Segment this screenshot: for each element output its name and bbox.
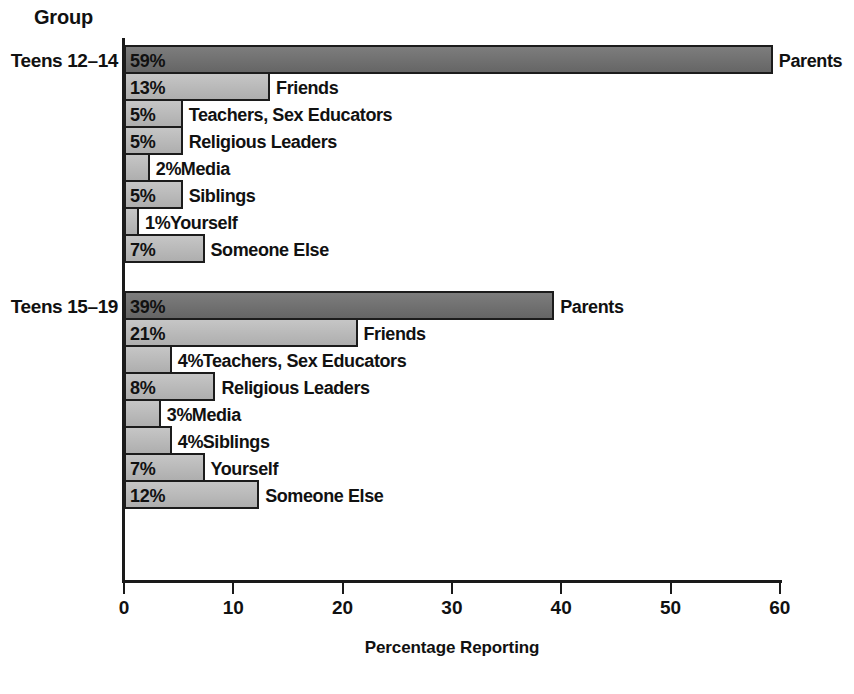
bar-category-label: Someone Else bbox=[211, 241, 329, 259]
bar-category-label: Yourself bbox=[170, 214, 237, 232]
bar-value-label: 7% bbox=[130, 241, 155, 259]
bar bbox=[124, 153, 150, 182]
bar-value-label: 13% bbox=[130, 79, 165, 97]
x-axis-tick-0 bbox=[123, 583, 125, 594]
bar bbox=[124, 345, 172, 374]
bar-value-label: 4% bbox=[178, 352, 203, 370]
x-axis-tick-label-10: 10 bbox=[223, 597, 244, 619]
bar-value-label: 12% bbox=[130, 487, 165, 505]
bar bbox=[124, 207, 139, 236]
bar-value-label: 3% bbox=[167, 406, 192, 424]
bar-category-label: Friends bbox=[276, 79, 338, 97]
bar-category-label: Friends bbox=[364, 325, 426, 343]
bar bbox=[124, 426, 172, 455]
bar-category-label: Parents bbox=[779, 52, 842, 70]
x-axis-title: Percentage Reporting bbox=[122, 638, 782, 658]
bar-value-label: 4% bbox=[178, 433, 203, 451]
bar-category-label: Media bbox=[181, 160, 230, 178]
bar bbox=[124, 399, 161, 428]
x-axis-tick-label-0: 0 bbox=[119, 597, 130, 619]
bar-value-label: 21% bbox=[130, 325, 165, 343]
bar-value-label: 59% bbox=[130, 52, 165, 70]
bar-category-label: Media bbox=[192, 406, 241, 424]
x-axis-tick-label-50: 50 bbox=[660, 597, 681, 619]
x-axis-tick-label-60: 60 bbox=[769, 597, 790, 619]
bar-category-label: Teachers, Sex Educators bbox=[203, 352, 407, 370]
bar-value-label: 7% bbox=[130, 460, 155, 478]
x-axis-tick-20 bbox=[342, 583, 344, 594]
bar-category-label: Siblings bbox=[203, 433, 270, 451]
x-axis-tick-50 bbox=[670, 583, 672, 594]
bar-category-label: Someone Else bbox=[265, 487, 383, 505]
bar-category-label: Yourself bbox=[211, 460, 278, 478]
bar bbox=[124, 291, 554, 320]
x-axis-tick-label-40: 40 bbox=[551, 597, 572, 619]
group-label-0: Teens 12–14 bbox=[0, 50, 118, 72]
x-axis-tick-label-30: 30 bbox=[441, 597, 462, 619]
x-axis-tick-30 bbox=[451, 583, 453, 594]
bar-value-label: 1% bbox=[145, 214, 170, 232]
group-label-1: Teens 15–19 bbox=[0, 296, 118, 318]
x-axis-tick-40 bbox=[560, 583, 562, 594]
bar bbox=[124, 45, 773, 74]
bar-category-label: Religious Leaders bbox=[189, 133, 337, 151]
x-axis-tick-10 bbox=[232, 583, 234, 594]
bar-value-label: 8% bbox=[130, 379, 155, 397]
bar-value-label: 2% bbox=[156, 160, 181, 178]
bar-category-label: Teachers, Sex Educators bbox=[189, 106, 393, 124]
bar-value-label: 39% bbox=[130, 298, 165, 316]
x-axis-tick-60 bbox=[779, 583, 781, 594]
bar-category-label: Siblings bbox=[189, 187, 256, 205]
bar-value-label: 5% bbox=[130, 187, 155, 205]
bar-category-label: Religious Leaders bbox=[221, 379, 369, 397]
x-axis-tick-label-20: 20 bbox=[332, 597, 353, 619]
bar-value-label: 5% bbox=[130, 133, 155, 151]
bar-chart: Group 0102030405060 59%Parents13%Friends… bbox=[0, 0, 854, 694]
bar-category-label: Parents bbox=[560, 298, 623, 316]
group-axis-header: Group bbox=[34, 6, 93, 29]
bar-value-label: 5% bbox=[130, 106, 155, 124]
